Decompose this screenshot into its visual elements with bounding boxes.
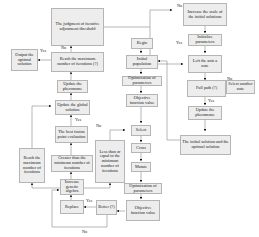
node-better: Better (?) [96, 200, 117, 215]
node-left-ants: Left the ants a note [188, 55, 222, 73]
edge-label-yes-output: Yes [40, 48, 46, 53]
flowchart-canvas: The judgment of iterative adjustment thr… [0, 0, 259, 237]
node-optimization-bottom: Optimization of parameters [124, 183, 162, 194]
node-greater-than: Greater than the minimum number of itera… [51, 155, 93, 172]
edge-label-yes-initialize: Yes [176, 40, 182, 45]
node-initialize: Initialize parameters [188, 34, 222, 46]
node-update-global: Update the global solution [55, 100, 90, 115]
node-judgement: The judgment of iterative adjustment thr… [51, 8, 104, 46]
node-reach-max-left: Reach the maximum number of iterations [19, 148, 45, 183]
edge-label-no-better: No [82, 229, 87, 234]
node-best-fusion: The best fusion point evaluation [55, 126, 88, 143]
node-less-than: Less than or equal to the minimum number… [95, 140, 125, 183]
node-select: Select [131, 125, 151, 136]
node-replace: Replace [60, 200, 84, 214]
edge-label-yes-full-path: Yes [208, 98, 214, 103]
edge-label-yes-replace: Yes [86, 198, 92, 203]
node-initial-population: Initial population [126, 55, 158, 69]
node-select-another: Select another note [226, 80, 255, 94]
node-output: Output the optimal solution [11, 49, 38, 71]
node-mutate: Mutate [131, 162, 151, 172]
edge-label-no-increase: No [177, 3, 182, 8]
edge-label-no-full-path: No [227, 76, 232, 81]
node-cross: Cross [131, 143, 151, 153]
node-update-pheromone-right: Update the pheromone [188, 106, 222, 120]
node-initial-optimal: The initial solution and the optimal sol… [180, 135, 231, 155]
edge-label-no-judgement: No [61, 45, 66, 50]
node-optimization-top: Optimization of parameters [122, 76, 162, 86]
node-objective-bottom: Objective function value [126, 200, 160, 221]
node-reach-max-top: Reach the maximum number of iterations (… [51, 52, 104, 72]
node-objective-top: Objective function value [126, 94, 158, 107]
node-full-path: Full path (?) [187, 80, 226, 97]
node-increase-scale: Increase the scale of the initial soluti… [183, 3, 227, 26]
edge-label-no-best: No [96, 123, 101, 128]
node-begin: Begin [131, 38, 153, 49]
edge-label-yes-best: Yes [75, 117, 81, 122]
node-update-pheromone-left: Update the pheromone [57, 80, 88, 93]
node-increase-genetic: Increase genetic algebra [60, 179, 84, 195]
